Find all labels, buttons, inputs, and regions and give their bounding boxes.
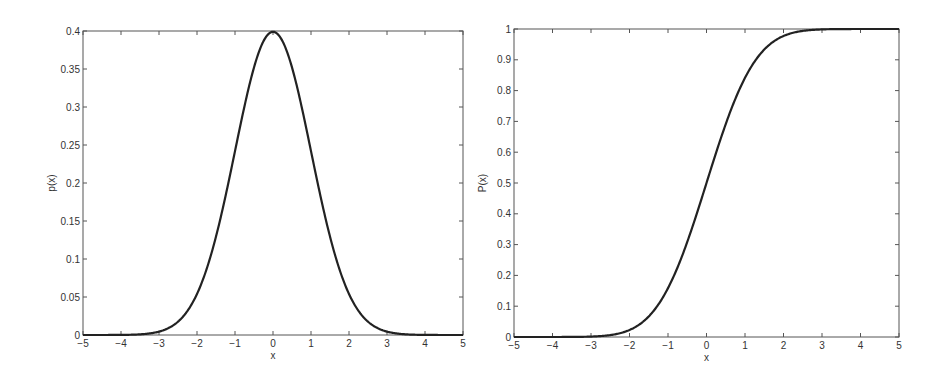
y-tick-label: 0.2 [66,178,80,189]
data-curve [83,32,463,335]
x-tick-label: 0 [704,340,710,351]
x-tick-label: −1 [662,340,674,351]
x-tick-label: 0 [270,338,276,349]
y-tick-label: 0.35 [61,64,81,75]
x-tick-label: 2 [346,338,352,349]
y-tick-label: 0.4 [497,208,511,219]
y-axis-label: P(x) [477,174,488,192]
x-tick-label: −2 [191,338,203,349]
y-axis-label: p(x) [46,174,57,191]
y-tick-label: 0.3 [497,239,511,250]
y-tick-label: 0.1 [497,301,511,312]
x-tick-label: 4 [422,338,428,349]
y-tick-label: 0.15 [61,216,81,227]
x-axis-label: x [271,350,276,361]
x-tick-label: −3 [153,338,165,349]
y-tick-label: 0 [505,332,511,343]
x-tick-label: 1 [742,340,748,351]
y-tick-label: 0.1 [66,254,80,265]
x-tick-label: −4 [115,338,127,349]
chart-canvas: −5−4−3−2−101234500.050.10.150.20.250.30.… [0,0,946,379]
x-tick-label: −3 [585,340,597,351]
x-tick-label: 5 [896,340,902,351]
pdf-plot: −5−4−3−2−101234500.050.10.150.20.250.30.… [46,26,466,362]
axes-frame [83,31,463,335]
x-tick-label: 4 [858,340,864,351]
y-tick-label: 0.8 [497,85,511,96]
x-tick-label: −2 [624,340,636,351]
y-tick-label: 0.25 [61,140,81,151]
y-tick-label: 0.7 [497,116,511,127]
y-tick-label: 0.9 [497,54,511,65]
x-tick-label: 1 [308,338,314,349]
x-tick-label: 3 [384,338,390,349]
y-tick-label: 0.6 [497,147,511,158]
data-curve [514,29,899,337]
y-tick-label: 1 [505,24,511,35]
x-tick-label: −4 [547,340,559,351]
x-tick-label: 2 [781,340,787,351]
cdf-plot: −5−4−3−2−101234500.10.20.30.40.50.60.70.… [477,24,902,364]
y-tick-label: 0 [74,330,80,341]
x-tick-label: 5 [460,338,466,349]
x-tick-label: 3 [819,340,825,351]
x-axis-label: x [704,352,709,363]
x-tick-label: −1 [229,338,241,349]
y-tick-label: 0.2 [497,270,511,281]
y-tick-label: 0.05 [61,292,81,303]
y-tick-label: 0.4 [66,26,80,37]
y-tick-label: 0.3 [66,102,80,113]
y-tick-label: 0.5 [497,178,511,189]
